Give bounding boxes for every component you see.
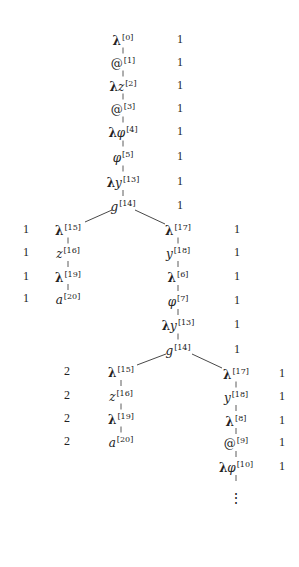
- node-symbol: z: [118, 80, 124, 94]
- occurrence-count: 1: [177, 78, 183, 93]
- occurrence-count: 1: [234, 342, 240, 357]
- node-index: [17]: [175, 223, 191, 232]
- occurrence-count: 1: [177, 101, 183, 116]
- node-index: [15]: [118, 365, 134, 374]
- node-index: [13]: [178, 318, 194, 327]
- tree-node: λ[15]: [108, 364, 134, 379]
- tree-node: λφ[10]: [219, 459, 253, 474]
- node-index: [3]: [124, 102, 135, 111]
- node-index: [19]: [118, 412, 134, 421]
- tree-node: z[16]: [109, 388, 133, 403]
- lambda-symbol: λ: [55, 271, 63, 285]
- node-index: [14]: [174, 343, 190, 352]
- tree-node: λ[19]: [108, 411, 134, 426]
- occurrence-count: 1: [234, 245, 240, 260]
- occurrence-count: 1: [234, 317, 240, 332]
- node-index: [15]: [65, 223, 81, 232]
- node-symbol: g: [165, 344, 173, 358]
- node-symbol: @: [224, 437, 236, 451]
- occurrence-count: 1: [234, 222, 240, 237]
- tree-node: λ[0]: [113, 32, 134, 47]
- tree-node: λ[8]: [226, 413, 247, 428]
- node-index: [9]: [237, 436, 248, 445]
- occurrence-count: 2: [64, 434, 70, 449]
- node-index: [10]: [237, 460, 253, 469]
- node-index: [2]: [125, 79, 136, 88]
- tree-node: z[16]: [56, 245, 80, 260]
- occurrence-count: 2: [64, 411, 70, 426]
- node-symbol: g: [110, 200, 118, 214]
- node-index: [14]: [119, 199, 135, 208]
- occurrence-count: 1: [279, 389, 285, 404]
- occurrence-count: 1: [177, 32, 183, 47]
- tree-node: λz[2]: [109, 78, 136, 93]
- node-index: [18]: [174, 246, 190, 255]
- tree-node: @[9]: [224, 435, 248, 450]
- occurrence-count: 1: [177, 55, 183, 70]
- node-index: [5]: [122, 150, 133, 159]
- tree-node: g[14]: [110, 198, 135, 213]
- occurrence-count: 1: [23, 222, 29, 237]
- tree-node: y[18]: [224, 389, 248, 404]
- node-symbol: y: [170, 319, 177, 333]
- continuation-ellipsis: ⋮: [229, 492, 243, 504]
- tree-node: g[14]: [165, 342, 190, 357]
- lambda-symbol: λ: [108, 366, 116, 380]
- node-symbol: φ: [117, 126, 125, 140]
- tree-node: φ[7]: [168, 293, 189, 308]
- occurrence-count: 1: [177, 174, 183, 189]
- lambda-symbol: λ: [168, 271, 176, 285]
- node-index: [17]: [233, 367, 249, 376]
- tree-node: λφ[4]: [108, 124, 137, 139]
- branch-edge: [85, 210, 112, 222]
- branch-edge: [192, 354, 222, 368]
- branch-edge: [135, 210, 165, 224]
- lambda-symbol: λ: [55, 224, 63, 238]
- node-index: [7]: [177, 294, 188, 303]
- lambda-symbol: λ: [223, 368, 231, 382]
- node-symbol: y: [166, 247, 173, 261]
- node-symbol: y: [224, 391, 231, 405]
- occurrence-count: 2: [64, 388, 70, 403]
- node-index: [1]: [124, 56, 135, 65]
- node-symbol: @: [111, 103, 123, 117]
- node-symbol: a: [109, 436, 116, 450]
- tree-node: λ[17]: [223, 366, 249, 381]
- tree-node: @[1]: [111, 55, 135, 70]
- tree-node: @[3]: [111, 101, 135, 116]
- occurrence-count: 1: [23, 245, 29, 260]
- occurrence-count: 1: [177, 149, 183, 164]
- node-index: [13]: [123, 175, 139, 184]
- node-symbol: y: [115, 176, 122, 190]
- branch-edge: [137, 354, 166, 365]
- occurrence-count: 1: [279, 435, 285, 450]
- node-index: [19]: [65, 270, 81, 279]
- occurrence-count: 1: [23, 291, 29, 306]
- node-index: [20]: [64, 292, 80, 301]
- node-symbol: φ: [227, 461, 235, 475]
- node-symbol: z: [109, 390, 115, 404]
- node-index: [16]: [116, 389, 132, 398]
- tree-node: λ[19]: [55, 269, 81, 284]
- node-index: [6]: [177, 270, 188, 279]
- tree-node: φ[5]: [113, 149, 134, 164]
- node-index: [18]: [232, 390, 248, 399]
- lambda-symbol: λ: [113, 34, 121, 48]
- occurrence-count: 1: [279, 366, 285, 381]
- tree-edges: [0, 0, 299, 567]
- lambda-symbol: λ: [165, 224, 173, 238]
- node-symbol: z: [56, 247, 62, 261]
- occurrence-count: 1: [234, 293, 240, 308]
- node-symbol: @: [111, 57, 123, 71]
- occurrence-count: 1: [234, 269, 240, 284]
- node-index: [0]: [122, 33, 133, 42]
- node-symbol: a: [56, 293, 63, 307]
- node-symbol: φ: [168, 295, 176, 309]
- tree-node: λy[13]: [107, 174, 140, 189]
- node-index: [4]: [126, 125, 137, 134]
- occurrence-count: 1: [279, 413, 285, 428]
- occurrence-count: 1: [23, 269, 29, 284]
- node-symbol: φ: [113, 151, 121, 165]
- lambda-symbol: λ: [226, 415, 234, 429]
- occurrence-count: 1: [279, 459, 285, 474]
